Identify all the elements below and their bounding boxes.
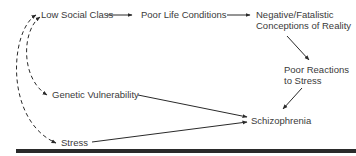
dashed-arrow-lowclass-genetic: [27, 17, 47, 95]
causal-diagram: Low Social Class Poor Life Conditions Ne…: [0, 0, 356, 156]
dashed-arrow-lowclass-stress: [17, 15, 56, 143]
arrow-negative-to-poorreactions: [287, 36, 309, 60]
node-negative-fatalistic-conceptions: Negative/Fatalistic Conceptions of Reali…: [256, 9, 351, 31]
arrow-poorreactions-to-schizophrenia: [283, 88, 302, 109]
node-negative-line1: Negative/Fatalistic: [256, 9, 351, 20]
arrow-genetic-to-schizophrenia: [138, 95, 247, 117]
arrow-stress-to-schizophrenia: [92, 122, 247, 142]
bottom-rule-divider: [16, 149, 356, 153]
node-schizophrenia: Schizophrenia: [251, 115, 311, 126]
node-genetic-vulnerability: Genetic Vulnerability: [52, 89, 139, 100]
node-stress: Stress: [61, 137, 88, 148]
node-poor-reactions-to-stress: Poor Reactions to Stress: [284, 64, 349, 86]
node-poor-reactions-line1: Poor Reactions: [284, 64, 349, 75]
node-poor-reactions-line2: to Stress: [284, 75, 349, 86]
node-low-social-class: Low Social Class: [41, 9, 113, 20]
node-poor-life-conditions: Poor Life Conditions: [141, 9, 227, 20]
node-negative-line2: Conceptions of Reality: [256, 20, 351, 31]
